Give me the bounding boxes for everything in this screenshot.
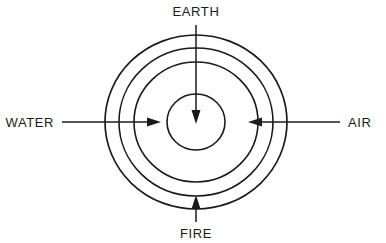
diagram-page: EARTH WATER AIR FIRE — [0, 0, 386, 243]
earth-arrow-head — [192, 110, 201, 124]
water-arrow — [62, 118, 161, 127]
water-arrow-head — [147, 118, 161, 127]
water-label: WATER — [6, 115, 55, 130]
air-arrow-head — [248, 118, 262, 127]
fire-arrow — [192, 195, 201, 222]
air-arrow — [248, 118, 340, 127]
earth-arrow — [192, 25, 201, 124]
concentric-elements-diagram: EARTH WATER AIR FIRE — [0, 0, 386, 243]
fire-arrow-head — [192, 195, 201, 209]
air-label: AIR — [348, 115, 371, 130]
earth-label: EARTH — [173, 4, 220, 19]
fire-label: FIRE — [180, 226, 212, 241]
